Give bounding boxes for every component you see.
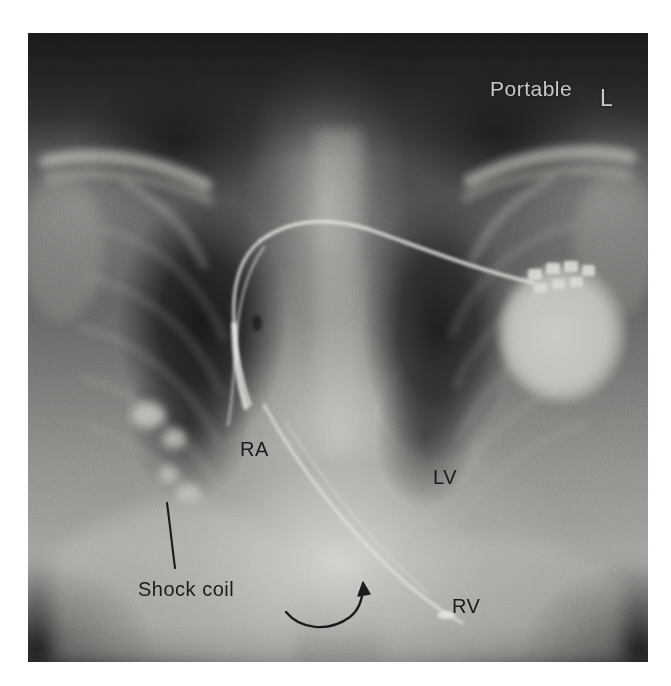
chest-radiograph-image: Portable L RA LV RV Shock coil (28, 33, 648, 662)
film-grain-overlay (28, 33, 648, 662)
figure-root: Portable L RA LV RV Shock coil (0, 0, 671, 686)
